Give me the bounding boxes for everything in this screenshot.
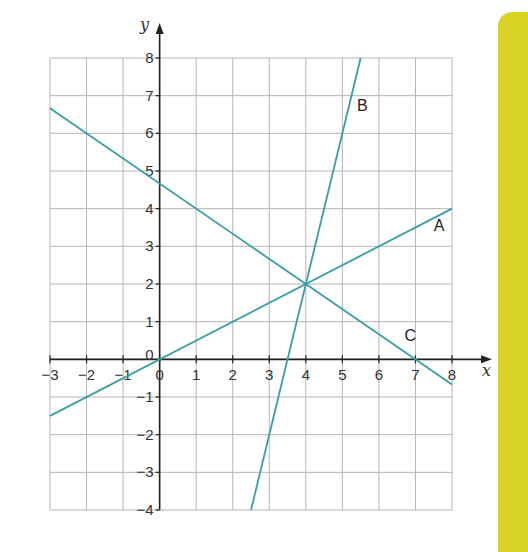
svg-text:0: 0 <box>145 346 153 363</box>
svg-text:−2: −2 <box>137 426 154 443</box>
svg-text:5: 5 <box>338 366 346 383</box>
line-b-label: B <box>357 97 368 114</box>
svg-text:−2: −2 <box>78 366 95 383</box>
line-a-label: A <box>434 217 445 234</box>
svg-text:2: 2 <box>229 366 237 383</box>
svg-text:8: 8 <box>145 49 153 66</box>
svg-text:−3: −3 <box>41 366 58 383</box>
svg-text:6: 6 <box>375 366 383 383</box>
svg-text:0: 0 <box>155 366 163 383</box>
svg-text:−3: −3 <box>137 463 154 480</box>
x-axis-label: x <box>482 361 491 380</box>
svg-text:2: 2 <box>145 275 153 292</box>
svg-text:3: 3 <box>145 237 153 254</box>
line-a <box>50 209 452 416</box>
svg-text:4: 4 <box>302 366 310 383</box>
svg-text:7: 7 <box>145 87 153 104</box>
side-panel <box>498 12 528 552</box>
svg-text:1: 1 <box>145 313 153 330</box>
svg-text:7: 7 <box>411 366 419 383</box>
svg-text:3: 3 <box>265 366 273 383</box>
svg-text:−4: −4 <box>137 501 154 518</box>
svg-text:1: 1 <box>192 366 200 383</box>
grid <box>50 58 452 510</box>
y-axis-label: y <box>139 15 150 34</box>
svg-text:−1: −1 <box>137 388 154 405</box>
svg-text:6: 6 <box>145 124 153 141</box>
svg-text:4: 4 <box>145 200 153 217</box>
svg-text:8: 8 <box>448 366 456 383</box>
line-c-label: C <box>404 327 416 344</box>
